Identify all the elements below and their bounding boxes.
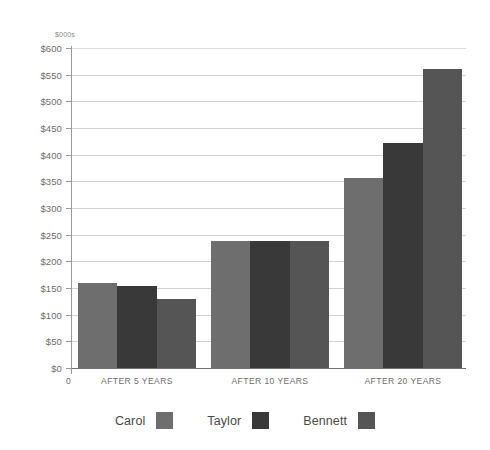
y-axis-tick [66, 315, 72, 316]
bar-taylor-2[interactable] [250, 241, 289, 368]
y-axis-tick [66, 261, 72, 262]
bar-taylor-3[interactable] [383, 143, 422, 368]
y-axis-tick [66, 235, 72, 236]
y-axis-tick [66, 181, 72, 182]
legend-swatch-taylor [252, 412, 269, 429]
y-axis-tick [66, 155, 72, 156]
bar-carol-3[interactable] [344, 178, 383, 368]
x-axis-label-1: AFTER 5 YEARS [101, 376, 173, 386]
y-axis-tick-label: $300 [40, 203, 62, 214]
y-axis-tick [66, 341, 72, 342]
y-axis-tick-label: $100 [40, 309, 62, 320]
y-axis-tick [66, 101, 72, 102]
y-axis-tick-label: $250 [40, 229, 62, 240]
legend-item-bennett[interactable]: Bennett [303, 412, 375, 429]
legend-label-bennett: Bennett [303, 414, 347, 428]
plot-area: $600$550$500$450$400$350$300$250$200$150… [72, 48, 466, 368]
bar-carol-2[interactable] [211, 241, 250, 368]
y-axis-tick [66, 288, 72, 289]
bar-carol-1[interactable] [78, 283, 117, 368]
gridline [72, 128, 466, 129]
legend-swatch-bennett [358, 412, 375, 429]
y-axis-tick-label: $150 [40, 283, 62, 294]
gridline [72, 75, 466, 76]
y-axis-tick-label: $600 [40, 43, 62, 54]
bar-bennett-1[interactable] [157, 299, 196, 368]
x-axis-baseline [71, 368, 466, 369]
y-axis-tick-label: $450 [40, 123, 62, 134]
origin-label: 0 [66, 376, 71, 386]
y-axis-tick-label: $200 [40, 256, 62, 267]
legend-label-carol: Carol [115, 414, 145, 428]
y-axis-unit-label: $000s [55, 31, 75, 38]
y-axis-tick-label: $50 [46, 336, 62, 347]
x-axis-label-2: AFTER 10 YEARS [231, 376, 308, 386]
y-axis-tick-label: $350 [40, 176, 62, 187]
legend-item-carol[interactable]: Carol [115, 412, 173, 429]
y-axis-tick-label: $550 [40, 69, 62, 80]
legend-label-taylor: Taylor [207, 414, 241, 428]
x-axis-label-3: AFTER 20 YEARS [364, 376, 441, 386]
origin-tick [71, 369, 72, 374]
bar-taylor-1[interactable] [117, 286, 156, 368]
y-axis-tick [66, 208, 72, 209]
bar-bennett-2[interactable] [290, 241, 329, 368]
legend-swatch-carol [156, 412, 173, 429]
y-axis-tick [66, 128, 72, 129]
y-axis-tick [66, 368, 72, 369]
y-axis-tick [66, 48, 72, 49]
y-axis-tick [66, 75, 72, 76]
y-axis-tick-label: $0 [51, 363, 62, 374]
legend-item-taylor[interactable]: Taylor [207, 412, 269, 429]
y-axis-tick-label: $400 [40, 149, 62, 160]
gridline [72, 48, 466, 49]
bar-chart: $000s 0 $600$550$500$450$400$350$300$250… [0, 0, 490, 450]
gridline [72, 101, 466, 102]
y-axis-tick-label: $500 [40, 96, 62, 107]
chart-legend: CarolTaylorBennett [0, 412, 490, 429]
bar-bennett-3[interactable] [423, 69, 462, 368]
